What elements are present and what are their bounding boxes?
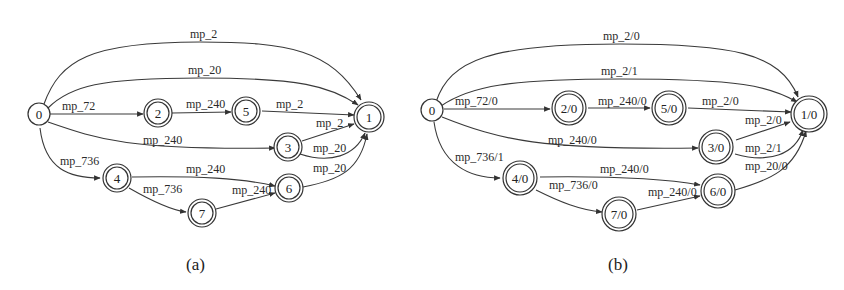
edge-label: mp_2 [316, 116, 343, 130]
state-node-70: 7/0 [602, 197, 636, 231]
svg-text:6/0: 6/0 [710, 184, 727, 199]
edge-label: mp_2 [190, 27, 217, 41]
edge-label: mp_240 [186, 97, 225, 111]
svg-text:7/0: 7/0 [611, 207, 628, 222]
edge-label: mp_20 [313, 161, 346, 175]
svg-text:2: 2 [155, 106, 162, 121]
state-node-30: 3/0 [699, 130, 733, 164]
edge-label: mp_2/0 [603, 29, 640, 43]
edge-label: mp_240/0 [598, 94, 647, 108]
svg-text:3/0: 3/0 [708, 140, 725, 155]
edge-label: mp_2/1 [601, 64, 638, 78]
edge-label: mp_20/0 [745, 159, 788, 173]
edge-label: mp_72/0 [455, 94, 498, 108]
edge-40-70 [536, 190, 602, 212]
edge-label: mp_2/0 [702, 94, 739, 108]
edge-50-10 [688, 108, 791, 112]
caption-a: (a) [186, 255, 205, 275]
state-node-0: 0 [28, 103, 50, 125]
edge-label: mp_736/0 [549, 178, 598, 192]
state-node-7: 7 [188, 199, 216, 227]
edge-label: mp_20 [188, 63, 221, 77]
svg-text:4/0: 4/0 [512, 171, 529, 186]
edge-label: mp_240/0 [648, 185, 697, 199]
caption-b: (b) [608, 255, 628, 275]
state-node-5: 5 [232, 97, 260, 125]
edge-label: mp_240 [143, 133, 182, 147]
edge-label: mp_20 [313, 141, 346, 155]
state-node-0: 0 [421, 99, 443, 121]
edge-label: mp_2/0 [745, 113, 782, 127]
diagram-a: mp_2 mp_20 mp_72 mp_240 mp_2 mp_2 mp_240… [28, 27, 384, 227]
edge-label: mp_736 [60, 154, 99, 168]
edge-5-1 [262, 111, 354, 115]
svg-text:1/0: 1/0 [801, 107, 818, 122]
svg-text:0: 0 [36, 107, 43, 122]
edge-label: mp_2 [276, 97, 303, 111]
state-node-20: 2/0 [552, 91, 586, 125]
edge-label: mp_736 [143, 182, 182, 196]
edge-label: mp_240/0 [600, 162, 649, 176]
svg-text:3: 3 [285, 140, 292, 155]
edge-label: mp_240/0 [548, 133, 597, 147]
edge-label: mp_2/1 [745, 141, 782, 155]
edge-2-5 [172, 112, 231, 113]
svg-text:1: 1 [366, 110, 373, 125]
state-node-50: 5/0 [652, 91, 686, 125]
edge-label: mp_240 [232, 183, 271, 197]
diagram-b: mp_2/0 mp_2/1 mp_72/0 mp_240/0 mp_2/0 mp… [421, 29, 827, 231]
state-node-10: 1/0 [791, 96, 827, 132]
svg-text:0: 0 [429, 103, 436, 118]
automata-figure: mp_2 mp_20 mp_72 mp_240 mp_2 mp_2 mp_240… [0, 0, 844, 290]
state-node-60: 6/0 [701, 174, 735, 208]
svg-text:5: 5 [243, 104, 250, 119]
state-node-2: 2 [144, 99, 172, 127]
edge-label: mp_240 [186, 162, 225, 176]
svg-text:5/0: 5/0 [661, 101, 678, 116]
edge-label: mp_72 [62, 99, 95, 113]
svg-text:7: 7 [199, 206, 206, 221]
state-node-40: 4/0 [503, 161, 537, 195]
svg-text:2/0: 2/0 [561, 101, 578, 116]
svg-text:4: 4 [114, 171, 121, 186]
state-node-1: 1 [354, 102, 384, 132]
state-node-3: 3 [274, 133, 302, 161]
edge-label: mp_736/1 [455, 150, 504, 164]
svg-text:6: 6 [286, 181, 293, 196]
state-node-4: 4 [103, 164, 131, 192]
state-node-6: 6 [275, 174, 303, 202]
